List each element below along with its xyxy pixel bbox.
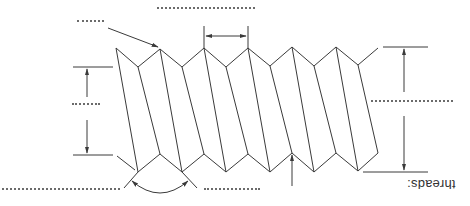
thread-flank-line xyxy=(226,67,248,154)
crest-label xyxy=(77,12,104,22)
thread-angle-label xyxy=(2,180,120,190)
thread-angle-dimension xyxy=(124,172,197,193)
minor-diameter-extension xyxy=(117,156,135,170)
pitch-label xyxy=(157,0,255,9)
crest-leader-arrow xyxy=(108,28,158,47)
thread-flank-line xyxy=(138,67,160,154)
thread-flank-line xyxy=(270,66,292,153)
minor-diameter-label xyxy=(72,95,100,105)
thread-diagram: threads: xyxy=(0,0,470,206)
root-label xyxy=(204,180,260,190)
minor-diameter-dimension xyxy=(73,67,113,155)
thread-flank-line xyxy=(314,66,336,153)
thread-profile xyxy=(116,47,378,172)
thread-flank-line xyxy=(248,48,270,172)
thread-flank-line xyxy=(336,47,358,171)
thread-flank-line xyxy=(116,48,138,172)
thread-drawing xyxy=(0,0,470,206)
thread-flank-line xyxy=(358,65,378,153)
thread-flank-line xyxy=(160,49,182,172)
major-diameter-label xyxy=(371,92,453,102)
thread-flank-line xyxy=(204,48,226,172)
thread-bottom-profile xyxy=(138,153,378,172)
thread-flank-line xyxy=(182,67,204,154)
thread-flank-line xyxy=(292,47,314,172)
caption-threads: threads: xyxy=(407,177,456,192)
major-diameter-dimension xyxy=(363,47,428,172)
pitch-dimension xyxy=(204,26,248,48)
